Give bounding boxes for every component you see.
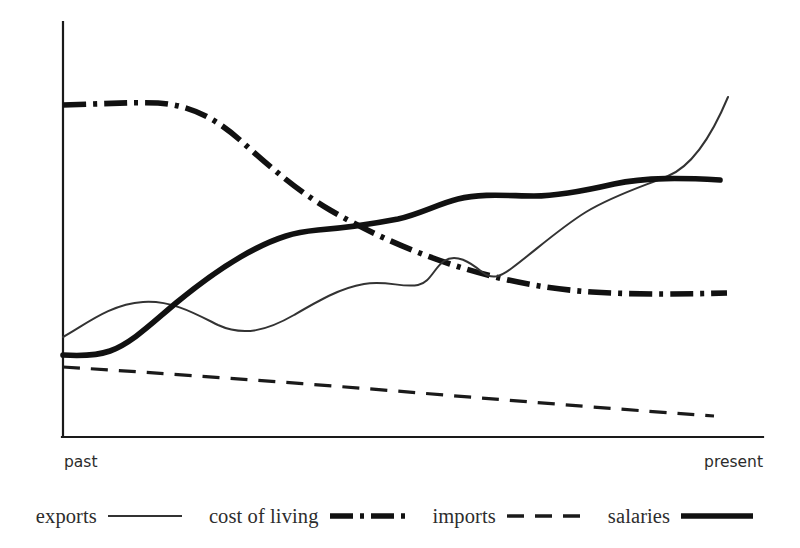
legend-label-exports: exports [36, 505, 97, 528]
legend-item-imports: imports [433, 505, 592, 528]
legend-label-salaries: salaries [608, 505, 670, 528]
legend-swatch-cost-of-living [328, 509, 408, 523]
chart-svg: past present [0, 0, 800, 548]
chart-legend: exports cost of living imports [0, 492, 800, 540]
legend-item-cost-of-living: cost of living [209, 505, 417, 528]
legend-swatch-exports [106, 509, 184, 523]
legend-label-imports: imports [433, 505, 496, 528]
x-axis-start-label: past [64, 453, 98, 471]
legend-swatch-imports [505, 509, 583, 523]
legend-item-exports: exports [36, 505, 193, 528]
chart-background [0, 0, 800, 548]
line-chart-figure: past present [0, 0, 800, 548]
chart-page: past present exports cost of living [0, 0, 800, 548]
legend-row: exports cost of living imports [36, 505, 764, 528]
legend-swatch-salaries [679, 509, 755, 523]
x-axis-end-label: present [704, 453, 763, 471]
legend-label-cost-of-living: cost of living [209, 505, 319, 528]
legend-item-salaries: salaries [608, 505, 764, 528]
